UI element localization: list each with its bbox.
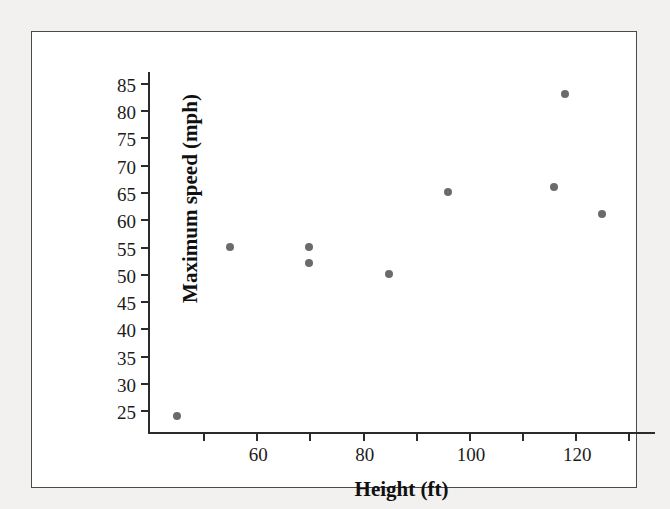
data-point — [385, 270, 393, 278]
figure-page: 6080100120140160180200220253035404550556… — [0, 0, 670, 509]
y-axis-tick-label: 65 — [117, 185, 136, 204]
x-axis-tick: 80 — [256, 432, 258, 441]
x-axis-tick-label: 100 — [457, 445, 486, 464]
y-axis-tick-label: 45 — [117, 294, 136, 313]
plot-area: 6080100120140160180200220253035404550556… — [148, 72, 655, 434]
y-axis-tick-label: 85 — [117, 75, 136, 94]
data-point — [305, 259, 313, 267]
x-axis-tick-label: 120 — [563, 445, 592, 464]
y-axis-tick-label: 75 — [117, 130, 136, 149]
y-axis-tick-label: 70 — [117, 157, 136, 176]
x-axis-label: Height (ft) — [148, 479, 655, 500]
y-axis-label-container: Maximum speed (mph) — [87, 72, 117, 434]
y-axis-tick: 50 — [141, 274, 150, 276]
x-axis-tick-label: 80 — [355, 445, 374, 464]
y-axis-tick: 30 — [141, 383, 150, 385]
y-axis-tick: 80 — [141, 110, 150, 112]
y-axis-tick: 45 — [141, 301, 150, 303]
y-axis-tick-label: 25 — [117, 403, 136, 422]
x-axis-tick: 200 — [575, 432, 577, 441]
y-axis-tick-label: 80 — [117, 103, 136, 122]
y-axis-tick: 40 — [141, 328, 150, 330]
y-axis-tick: 55 — [141, 247, 150, 249]
data-point — [550, 183, 558, 191]
y-axis-tick-label: 55 — [117, 239, 136, 258]
y-axis-tick-label: 50 — [117, 266, 136, 285]
y-axis-tick: 25 — [141, 410, 150, 412]
data-point — [305, 243, 313, 251]
y-axis-tick: 70 — [141, 165, 150, 167]
y-axis-tick-label: 30 — [117, 375, 136, 394]
x-axis-tick: 100 — [309, 432, 311, 441]
data-point — [226, 243, 234, 251]
data-point — [173, 412, 181, 420]
y-axis-tick-label: 35 — [117, 348, 136, 367]
x-axis-tick: 220 — [628, 432, 630, 441]
y-axis-tick: 60 — [141, 219, 150, 221]
y-axis-tick-label: 60 — [117, 212, 136, 231]
y-axis-tick: 35 — [141, 356, 150, 358]
x-axis-tick: 160 — [469, 432, 471, 441]
figure-frame: 6080100120140160180200220253035404550556… — [31, 31, 637, 488]
data-point — [561, 90, 569, 98]
x-axis-tick: 140 — [416, 432, 418, 441]
x-axis-tick: 60 — [203, 432, 205, 441]
y-axis-label: Maximum speed (mph) — [180, 34, 201, 364]
x-axis-tick: 120 — [363, 432, 365, 441]
data-point — [598, 210, 606, 218]
y-axis-tick: 75 — [141, 137, 150, 139]
y-axis-tick: 85 — [141, 83, 150, 85]
y-axis-tick: 65 — [141, 192, 150, 194]
x-axis-tick: 180 — [522, 432, 524, 441]
x-axis-tick-label: 60 — [249, 445, 268, 464]
data-point — [444, 188, 452, 196]
y-axis-tick-label: 40 — [117, 321, 136, 340]
